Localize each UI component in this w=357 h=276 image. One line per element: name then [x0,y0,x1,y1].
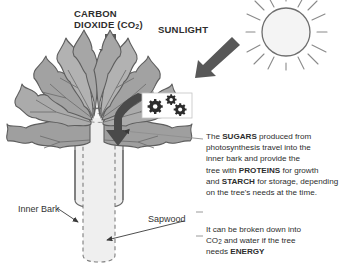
sugars-callout-text: The SUGARS produced fromphotosynthesis t… [206,131,356,198]
sugars-l3: inner bark and provide the [206,154,300,163]
proteins-keyword: PROTEINS [239,166,280,175]
energy-callout-text: It can be broken down intoCO2 and water … [206,224,356,258]
sugars-l1c: produced from [257,132,311,141]
co2-line-1: CARBON [74,8,117,19]
energy-l3a: needs [206,247,230,256]
sapwood-label: Sapwood [148,214,186,224]
energy-l1: It can be broken down into [206,225,301,234]
sugars-l4a: tree with [206,166,239,175]
sugars-l5a: and [206,177,222,186]
gears-icon [142,93,192,118]
sunlight-label: SUNLIGHT [158,25,208,36]
leaf-cluster-left [7,30,100,148]
energy-co2-subscript: 2 [218,238,222,245]
carbon-dioxide-label: CARBONDIOXIDE (CO2) [74,9,143,30]
inner-bark-label: Inner Bark [18,204,60,214]
energy-keyword: ENERGY [230,247,264,256]
sugars-keyword: SUGARS [222,132,257,141]
sugars-l6: on the tree's needs at the time. [206,188,317,197]
co2-subscript: 2 [135,23,139,30]
sun-icon [246,0,327,70]
energy-l2b: and water if the tree [222,236,296,245]
photosynthesis-diagram: CARBONDIOXIDE (CO2) SUNLIGHT Inner Bark … [0,0,357,276]
pointer-arrow-icon [57,208,78,222]
sugars-l5c: for storage, depending [255,177,338,186]
sugars-l4c: for growth [280,166,318,175]
starch-keyword: STARCH [222,177,255,186]
energy-l2a: CO [206,236,218,245]
co2-paren: ) [139,19,142,30]
sugars-l1a: The [206,132,222,141]
diagonal-arrow-icon [195,37,240,78]
sugars-l2: photosynthesis travel into the [206,143,311,152]
co2-line-2: DIOXIDE (CO [74,19,135,30]
